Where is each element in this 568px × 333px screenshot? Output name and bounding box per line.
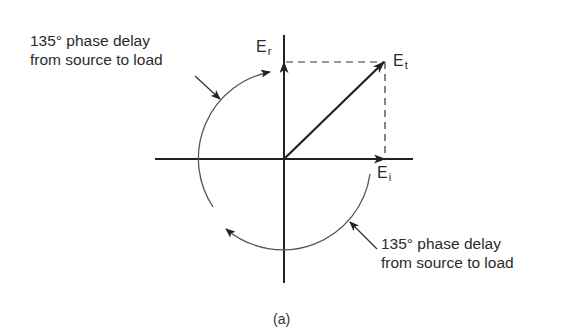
upper-leader-arrow [195, 76, 220, 99]
lower-annotation: 135° phase delay from source to load [381, 234, 514, 272]
total-vector [284, 62, 384, 159]
upper-annotation-line1: 135° phase delay [30, 31, 163, 50]
lower-annotation-line1: 135° phase delay [381, 234, 514, 253]
lower-annotation-line2: from source to load [381, 253, 514, 272]
figure-caption: (a) [273, 311, 290, 327]
reflected-label: Er [256, 38, 271, 57]
upper-annotation: 135° phase delay from source to load [30, 31, 163, 69]
upper-annotation-line2: from source to load [30, 50, 163, 69]
incident-label: Ei [377, 164, 391, 183]
upper-phase-arc [198, 72, 270, 207]
total-label: Et [393, 52, 408, 71]
lower-leader-arrow [350, 222, 377, 249]
lower-phase-arc [226, 174, 370, 250]
